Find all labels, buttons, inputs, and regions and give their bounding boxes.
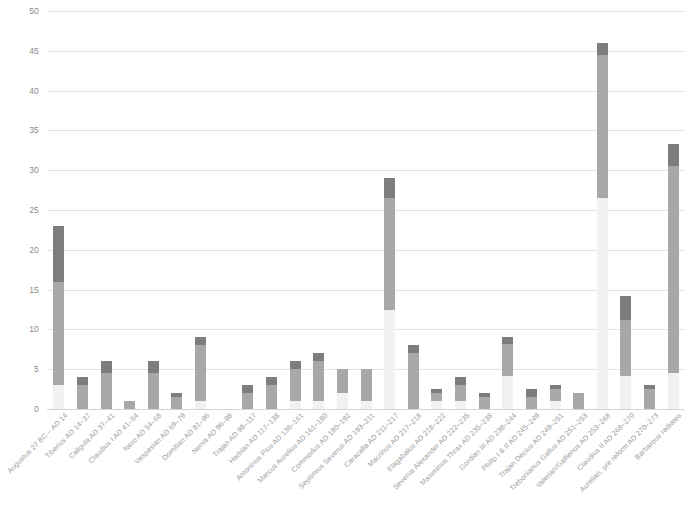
bar-group[interactable] bbox=[242, 11, 253, 409]
bar-segment-series2[interactable] bbox=[242, 393, 253, 409]
bar-segment-series3[interactable] bbox=[171, 393, 182, 397]
bar-segment-series2[interactable] bbox=[171, 397, 182, 409]
bar-group[interactable] bbox=[384, 11, 395, 409]
bar-segment-series2[interactable] bbox=[361, 369, 372, 401]
bar-group[interactable] bbox=[266, 11, 277, 409]
bar-segment-series3[interactable] bbox=[266, 377, 277, 385]
bar-group[interactable] bbox=[408, 11, 419, 409]
bar-segment-series3[interactable] bbox=[408, 345, 419, 353]
bar-segment-series1[interactable] bbox=[620, 376, 631, 409]
bar-segment-series2[interactable] bbox=[455, 385, 466, 401]
bar-segment-series3[interactable] bbox=[195, 337, 206, 345]
bar-segment-series2[interactable] bbox=[644, 389, 655, 409]
bar-group[interactable] bbox=[195, 11, 206, 409]
bar-segment-series1[interactable] bbox=[361, 401, 372, 409]
y-tick-label: 20 bbox=[13, 245, 39, 255]
bar-group[interactable] bbox=[620, 11, 631, 409]
bar-group[interactable] bbox=[219, 11, 230, 409]
bar-segment-series1[interactable] bbox=[290, 401, 301, 409]
bar-group[interactable] bbox=[77, 11, 88, 409]
bar-segment-series1[interactable] bbox=[502, 376, 513, 409]
bar-segment-series2[interactable] bbox=[479, 397, 490, 409]
bar-segment-series1[interactable] bbox=[53, 385, 64, 409]
bar-segment-series2[interactable] bbox=[313, 361, 324, 401]
bar-group[interactable] bbox=[148, 11, 159, 409]
bar-segment-series2[interactable] bbox=[597, 55, 608, 198]
bar-group[interactable] bbox=[573, 11, 584, 409]
bar-segment-series3[interactable] bbox=[502, 337, 513, 343]
bar-segment-series2[interactable] bbox=[573, 393, 584, 409]
bar-group[interactable] bbox=[550, 11, 561, 409]
bar-group[interactable] bbox=[171, 11, 182, 409]
bar-segment-series2[interactable] bbox=[266, 385, 277, 409]
bar-segment-series3[interactable] bbox=[526, 389, 537, 397]
y-tick-label: 30 bbox=[13, 165, 39, 175]
bar-group[interactable] bbox=[361, 11, 372, 409]
bar-group[interactable] bbox=[313, 11, 324, 409]
bar-group[interactable] bbox=[597, 11, 608, 409]
bar-segment-series1[interactable] bbox=[455, 401, 466, 409]
y-tick-label: 5 bbox=[13, 364, 39, 374]
bar-segment-series2[interactable] bbox=[290, 369, 301, 401]
bar-group[interactable] bbox=[526, 11, 537, 409]
bar-group[interactable] bbox=[290, 11, 301, 409]
bar-segment-series2[interactable] bbox=[502, 344, 513, 376]
bar-segment-series1[interactable] bbox=[337, 393, 348, 409]
plot-area bbox=[47, 11, 685, 409]
bar-segment-series3[interactable] bbox=[620, 296, 631, 320]
bar-segment-series3[interactable] bbox=[597, 43, 608, 55]
bar-segment-series3[interactable] bbox=[384, 178, 395, 198]
bar-segment-series1[interactable] bbox=[431, 401, 442, 409]
bar-segment-series3[interactable] bbox=[290, 361, 301, 369]
bar-group[interactable] bbox=[124, 11, 135, 409]
bar-segment-series2[interactable] bbox=[431, 393, 442, 401]
bar-segment-series3[interactable] bbox=[242, 385, 253, 393]
bar-segment-series2[interactable] bbox=[620, 320, 631, 376]
bar-group[interactable] bbox=[455, 11, 466, 409]
bar-segment-series3[interactable] bbox=[455, 377, 466, 385]
bar-segment-series3[interactable] bbox=[479, 393, 490, 397]
bar-segment-series2[interactable] bbox=[337, 369, 348, 393]
y-tick-label: 10 bbox=[13, 324, 39, 334]
bar-segment-series2[interactable] bbox=[77, 385, 88, 409]
x-axis-labels: Augustus 27 BC – AD 14Tiberius AD 14–37C… bbox=[47, 411, 685, 516]
bar-group[interactable] bbox=[431, 11, 442, 409]
bar-segment-series2[interactable] bbox=[53, 282, 64, 385]
bar-segment-series1[interactable] bbox=[668, 373, 679, 409]
bar-segment-series3[interactable] bbox=[148, 361, 159, 373]
bar-segment-series2[interactable] bbox=[101, 373, 112, 409]
bar-group[interactable] bbox=[668, 11, 679, 409]
bar-segment-series1[interactable] bbox=[313, 401, 324, 409]
bar-segment-series2[interactable] bbox=[526, 397, 537, 409]
bar-segment-series3[interactable] bbox=[668, 144, 679, 166]
y-tick-label: 35 bbox=[13, 125, 39, 135]
bar-segment-series3[interactable] bbox=[77, 377, 88, 385]
bar-segment-series2[interactable] bbox=[148, 373, 159, 409]
bar-group[interactable] bbox=[53, 11, 64, 409]
y-tick-label: 50 bbox=[13, 6, 39, 16]
bar-segment-series2[interactable] bbox=[408, 353, 419, 409]
bar-segment-series1[interactable] bbox=[384, 310, 395, 410]
bars-layer bbox=[47, 11, 685, 409]
bar-segment-series3[interactable] bbox=[550, 385, 561, 389]
bar-segment-series3[interactable] bbox=[644, 385, 655, 389]
bar-group[interactable] bbox=[337, 11, 348, 409]
bar-segment-series3[interactable] bbox=[313, 353, 324, 361]
bar-group[interactable] bbox=[479, 11, 490, 409]
bar-segment-series2[interactable] bbox=[195, 345, 206, 401]
bar-segment-series2[interactable] bbox=[550, 389, 561, 401]
y-tick-label: 15 bbox=[13, 285, 39, 295]
bar-group[interactable] bbox=[502, 11, 513, 409]
bar-segment-series1[interactable] bbox=[550, 401, 561, 409]
bar-segment-series3[interactable] bbox=[53, 226, 64, 282]
bar-segment-series3[interactable] bbox=[431, 389, 442, 393]
bar-segment-series1[interactable] bbox=[597, 198, 608, 409]
bar-segment-series2[interactable] bbox=[668, 166, 679, 373]
stacked-bar-chart: Augustus 27 BC – AD 14Tiberius AD 14–37C… bbox=[0, 0, 693, 516]
bar-segment-series3[interactable] bbox=[101, 361, 112, 373]
bar-group[interactable] bbox=[644, 11, 655, 409]
bar-segment-series2[interactable] bbox=[124, 401, 135, 409]
bar-segment-series1[interactable] bbox=[195, 401, 206, 409]
bar-segment-series2[interactable] bbox=[384, 198, 395, 309]
bar-group[interactable] bbox=[101, 11, 112, 409]
